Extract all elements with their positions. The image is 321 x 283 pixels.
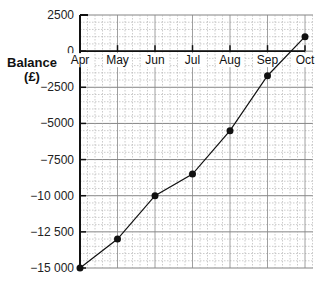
x-tick-labels: AprMayJunJulAugSepOct — [66, 53, 319, 67]
y-tick-label: −7500 — [40, 153, 74, 167]
x-tick-label: May — [106, 53, 129, 67]
x-tick-label: Apr — [71, 53, 90, 67]
data-point-marker — [114, 236, 121, 243]
y-tick-label: −12 500 — [30, 225, 74, 239]
data-point-marker — [77, 265, 84, 272]
y-tick-label: −15 000 — [30, 261, 74, 275]
y-tick-label: −2500 — [40, 80, 74, 94]
data-point-marker — [189, 171, 196, 178]
balance-line-chart: 25000−2500−5000−7500−10 000−12 500−15 00… — [0, 0, 321, 283]
data-point-marker — [152, 192, 159, 199]
data-point-marker — [264, 72, 271, 79]
y-tick-label: −10 000 — [30, 189, 74, 203]
y-tick-labels: 25000−2500−5000−7500−10 000−12 500−15 00… — [30, 8, 74, 275]
x-tick-label: Oct — [296, 53, 315, 67]
x-tick-label: Aug — [219, 53, 240, 67]
x-tick-label: Jun — [145, 53, 164, 67]
data-point-marker — [227, 127, 234, 134]
data-point-marker — [302, 33, 309, 40]
y-tick-label: −5000 — [40, 116, 74, 130]
x-tick-label: Sep — [257, 53, 279, 67]
x-tick-label: Jul — [185, 53, 200, 67]
y-tick-label: 2500 — [47, 8, 74, 22]
